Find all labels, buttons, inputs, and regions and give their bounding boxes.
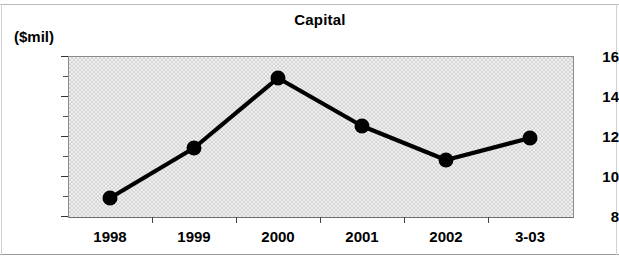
y-axis-tick-label: 8 bbox=[573, 208, 619, 225]
y-axis-minor-tick bbox=[63, 196, 68, 197]
figure-border-bottom bbox=[0, 254, 619, 255]
x-axis-tick-label: 1998 bbox=[65, 228, 155, 245]
y-axis-tick-label: 14 bbox=[573, 88, 619, 105]
y-axis-tick-label: 12 bbox=[573, 128, 619, 145]
figure-border-left bbox=[1, 4, 2, 255]
y-axis-major-tick bbox=[61, 216, 68, 217]
y-axis-minor-tick bbox=[63, 116, 68, 117]
y-axis-tick-label: 16 bbox=[573, 48, 619, 65]
x-axis-tick bbox=[152, 217, 153, 223]
x-axis-tick bbox=[236, 217, 237, 223]
y-axis-minor-tick bbox=[63, 76, 68, 77]
x-axis-tick bbox=[320, 217, 321, 223]
chart-title: Capital bbox=[180, 11, 460, 28]
x-axis-tick-label: 2002 bbox=[401, 228, 491, 245]
y-axis-tick-label: 10 bbox=[573, 168, 619, 185]
x-axis-tick-label: 2000 bbox=[233, 228, 323, 245]
x-axis-tick bbox=[488, 217, 489, 223]
y-axis-major-tick bbox=[61, 56, 68, 57]
x-axis-tick-label: 2001 bbox=[317, 228, 407, 245]
chart-figure: Capital ($mil) 810121416 199819992000200… bbox=[0, 0, 619, 265]
figure-border-top bbox=[0, 4, 619, 5]
y-axis-minor-tick bbox=[63, 156, 68, 157]
y-axis-major-tick bbox=[61, 136, 68, 137]
y-axis-unit-label: ($mil) bbox=[14, 28, 54, 45]
y-axis-major-tick bbox=[61, 96, 68, 97]
x-axis-tick bbox=[404, 217, 405, 223]
x-axis-tick-label: 3-03 bbox=[485, 228, 575, 245]
x-axis-tick-label: 1999 bbox=[149, 228, 239, 245]
plot-area bbox=[68, 56, 574, 218]
y-axis-major-tick bbox=[61, 176, 68, 177]
